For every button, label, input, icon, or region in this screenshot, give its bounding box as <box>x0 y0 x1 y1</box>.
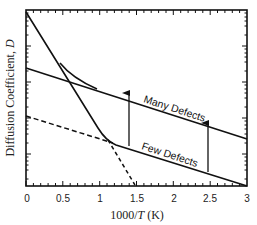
svg-text:1: 1 <box>97 193 103 204</box>
intrinsic-few-defects-curve <box>26 12 247 186</box>
extrinsic-dashed-line <box>26 116 113 143</box>
x-axis-title: 1000/T (K) <box>110 208 164 222</box>
y-axis-title: Diffusion Coefficient, D <box>3 39 17 157</box>
diffusion-chart: Many Defects Few Defects 0 0.5 1 1.5 2 2… <box>0 0 257 225</box>
svg-text:3: 3 <box>244 193 250 204</box>
svg-text:0.5: 0.5 <box>56 193 70 204</box>
svg-text:2: 2 <box>171 193 177 204</box>
svg-text:0: 0 <box>24 193 30 204</box>
many-defects-line <box>26 68 247 139</box>
few-defects-label: Few Defects <box>140 139 199 168</box>
svg-text:2.5: 2.5 <box>203 193 217 204</box>
plot-frame <box>26 10 247 186</box>
y-ticks <box>26 13 247 179</box>
svg-text:1.5: 1.5 <box>130 193 144 204</box>
x-tick-labels: 0 0.5 1 1.5 2 2.5 3 <box>24 193 250 204</box>
